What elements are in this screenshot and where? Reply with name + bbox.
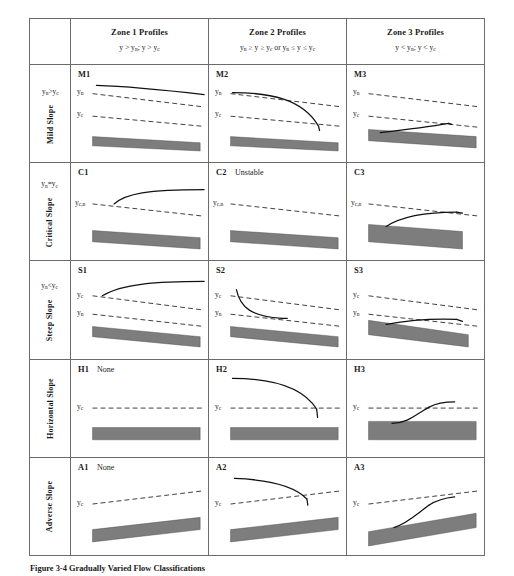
cell-S1: S1 yc yn	[71, 261, 209, 358]
row-label-horizontal-slope: Horizontal Slope	[30, 360, 71, 457]
zone-1-title: Zone 1 Profiles	[71, 26, 208, 38]
cell-H3: H3 yc	[347, 360, 484, 457]
row-name-steep: Steep Slope	[45, 300, 54, 342]
zone-3-condition: y < yn; y < yc	[347, 42, 484, 55]
table-header-row: Zone 1 Profiles y > yn; y > yc Zone 2 Pr…	[30, 19, 484, 64]
cell-M3: M3 yn yc	[347, 65, 484, 162]
cell-C3: C3 yc,n	[347, 163, 484, 260]
row-adverse-slope: Adverse Slope A1 None yc A2	[30, 457, 484, 555]
cell-H2: H2 yc	[209, 360, 347, 457]
row-condition-critical: yn=yc	[42, 180, 59, 189]
cell-A2: A2 yc	[209, 458, 347, 555]
cell-A1: A1 None yc	[71, 458, 209, 555]
header-zone-3: Zone 3 Profiles y < yn; y < yc	[347, 19, 484, 64]
diagram-A1	[71, 458, 208, 555]
figure-page: Zone 1 Profiles y > yn; y > yc Zone 2 Pr…	[0, 0, 514, 576]
row-critical-slope: Critical Slope yn=yc C1 yc,n	[30, 162, 484, 260]
cell-M1: M1 yn yc	[71, 65, 209, 162]
row-name-adverse: Adverse Slope	[46, 481, 55, 532]
figure-caption: Figure 3-4 Gradually Varied Flow Classif…	[30, 564, 205, 576]
diagram-M2	[209, 65, 346, 162]
diagram-H2	[209, 360, 346, 457]
row-name-horizontal: Horizontal Slope	[46, 378, 55, 439]
header-corner-cell	[30, 19, 71, 64]
diagram-A3	[347, 458, 484, 555]
row-condition-steep: yn<yc	[42, 282, 59, 291]
row-label-steep-slope: Steep Slope yn<yc	[30, 261, 71, 358]
diagram-S1	[71, 261, 208, 358]
zone-3-title: Zone 3 Profiles	[347, 26, 484, 38]
row-label-adverse-slope: Adverse Slope	[30, 458, 71, 555]
zone-2-title: Zone 2 Profiles	[209, 26, 346, 38]
diagram-C2	[209, 163, 346, 260]
row-name-mild: Mild Slope	[45, 105, 54, 144]
gvf-classification-table: Zone 1 Profiles y > yn; y > yc Zone 2 Pr…	[29, 18, 485, 556]
header-zone-2: Zone 2 Profiles yn ≥ y ≥ yc or yn ≤ y ≤ …	[209, 19, 347, 64]
header-zone-1: Zone 1 Profiles y > yn; y > yc	[71, 19, 209, 64]
cell-C2: C2 Unstable yc,n	[209, 163, 347, 260]
diagram-H3	[347, 360, 484, 457]
cell-C1: C1 yc,n	[71, 163, 209, 260]
cell-S3: S3 yc yn	[347, 261, 484, 358]
row-horizontal-slope: Horizontal Slope H1 None yc H2	[30, 359, 484, 457]
row-name-critical: Critical Slope	[45, 198, 54, 248]
diagram-S2	[209, 261, 346, 358]
row-condition-mild: yn>yc	[42, 87, 59, 96]
cell-M2: M2 yn yc	[209, 65, 347, 162]
diagram-A2	[209, 458, 346, 555]
diagram-S3	[347, 261, 484, 358]
diagram-M1	[71, 65, 208, 162]
cell-S2: S2 yc yn	[209, 261, 347, 358]
diagram-M3	[347, 65, 484, 162]
diagram-C3	[347, 163, 484, 260]
row-label-critical-slope: Critical Slope yn=yc	[30, 163, 71, 260]
diagram-H1	[71, 360, 208, 457]
row-steep-slope: Steep Slope yn<yc S1 yc yn	[30, 260, 484, 358]
zone-1-condition: y > yn; y > yc	[71, 42, 208, 55]
row-label-mild-slope: Mild Slope yn>yc	[30, 65, 71, 162]
row-mild-slope: Mild Slope yn>yc M1 yn yc	[30, 64, 484, 162]
diagram-C1	[71, 163, 208, 260]
cell-H1: H1 None yc	[71, 360, 209, 457]
zone-2-condition: yn ≥ y ≥ yc or yn ≤ y ≤ yc	[209, 42, 346, 55]
cell-A3: A3 yc	[347, 458, 484, 555]
